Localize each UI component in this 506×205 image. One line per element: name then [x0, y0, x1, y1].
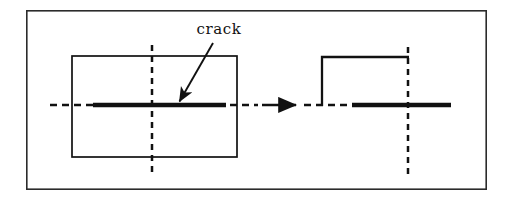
crack-symmetry-diagram: crack: [0, 0, 506, 205]
crack-label: crack: [196, 20, 241, 38]
figure-container: crack: [0, 0, 506, 205]
figure-border: [27, 11, 486, 189]
